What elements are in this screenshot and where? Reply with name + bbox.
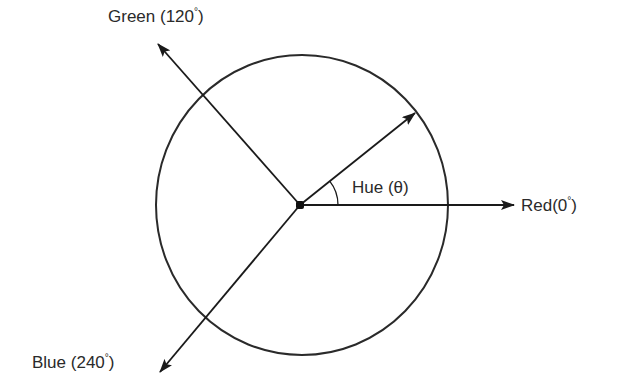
red-label: Red(0°) [521,195,577,215]
green-label: Green (120°) [108,6,204,26]
hue-angle-arc [330,181,338,205]
blue-label: Blue (240°) [32,352,114,372]
center-point [296,201,304,209]
hue-circle-diagram: Green (120°) Hue (θ) Red(0°) Blue (240°) [0,0,629,391]
hue-label: Hue (θ) [352,178,409,197]
